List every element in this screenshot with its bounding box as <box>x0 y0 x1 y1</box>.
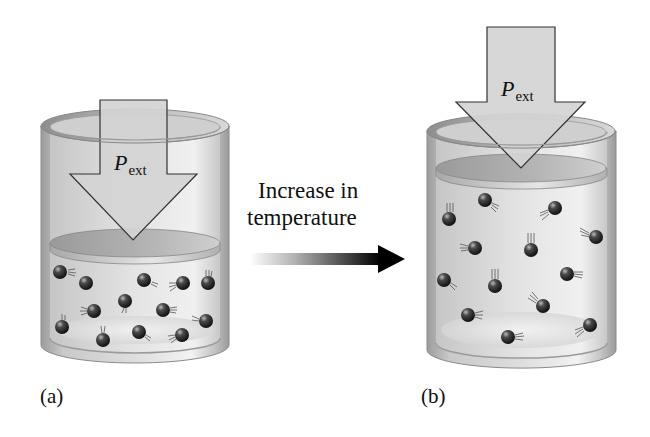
temperature-increase-arrow <box>250 245 405 273</box>
transition-caption-line1: Increase in <box>258 178 358 204</box>
panel-a-label: (a) <box>40 384 63 409</box>
panel-b-label: (b) <box>421 384 446 409</box>
transition-caption-line2: temperature <box>247 205 357 231</box>
molecule <box>79 276 93 290</box>
